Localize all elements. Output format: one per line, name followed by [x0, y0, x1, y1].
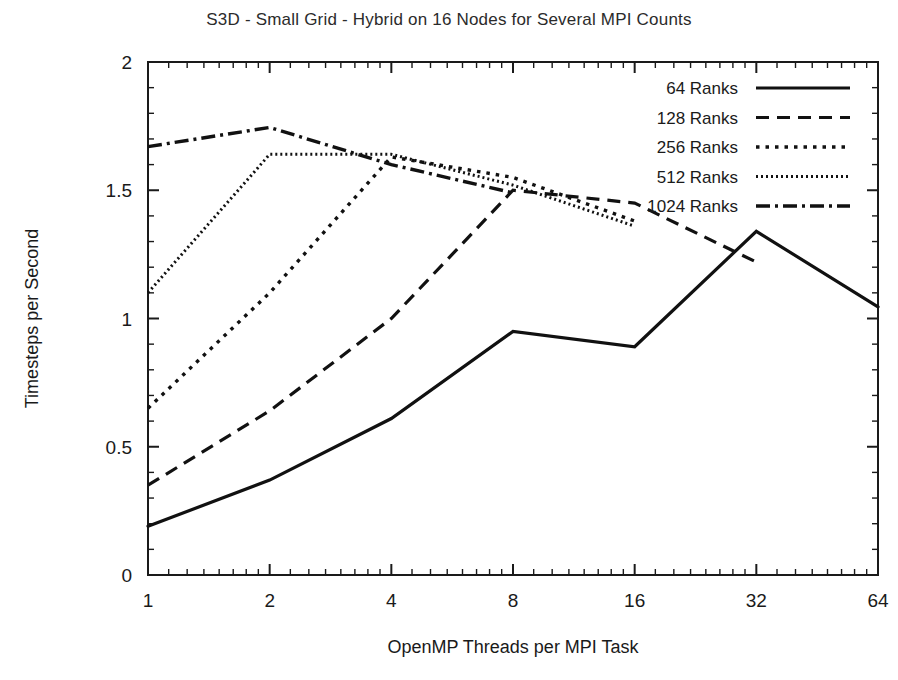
legend: 64 Ranks128 Ranks256 Ranks512 Ranks1024 …	[647, 79, 850, 216]
y-axis-title: Timesteps per Second	[22, 229, 42, 408]
legend-label-128-ranks: 128 Ranks	[657, 109, 738, 128]
y-tick-label: 1.5	[106, 180, 132, 201]
series-line-256-ranks	[148, 157, 635, 408]
x-tick-label: 32	[746, 590, 767, 611]
series-line-1024-ranks	[148, 127, 513, 192]
x-tick-label: 64	[867, 590, 889, 611]
y-tick-label: 0	[121, 565, 132, 586]
y-tick-label: 2	[121, 52, 132, 73]
x-tick-label: 16	[624, 590, 645, 611]
series-line-512-ranks	[148, 154, 635, 293]
legend-label-512-ranks: 512 Ranks	[657, 168, 738, 187]
legend-label-256-ranks: 256 Ranks	[657, 138, 738, 157]
series-line-128-ranks	[148, 190, 756, 485]
x-tick-label: 8	[508, 590, 519, 611]
x-tick-label: 4	[386, 590, 397, 611]
legend-label-1024-ranks: 1024 Ranks	[647, 197, 738, 216]
x-tick-label: 1	[143, 590, 154, 611]
legend-label-64-ranks: 64 Ranks	[666, 79, 738, 98]
axes	[148, 62, 878, 575]
plot-frame	[148, 62, 878, 575]
y-tick-label: 0.5	[106, 437, 132, 458]
y-tick-label: 1	[121, 309, 132, 330]
chart-figure: S3D - Small Grid - Hybrid on 16 Nodes fo…	[0, 0, 898, 680]
plot-canvas: 124816326400.511.52 OpenMP Threads per M…	[0, 0, 898, 680]
x-axis-title: OpenMP Threads per MPI Task	[387, 637, 639, 657]
series-line-64-ranks	[148, 231, 878, 526]
data-series-group	[148, 127, 878, 526]
x-tick-label: 2	[264, 590, 275, 611]
